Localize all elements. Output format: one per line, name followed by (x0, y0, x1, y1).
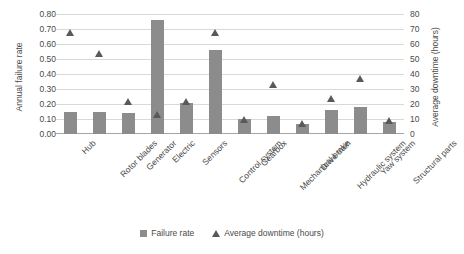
chart-legend: Failure rate Average downtime (hours) (0, 228, 464, 238)
bar (122, 113, 134, 134)
downtime-marker (327, 95, 335, 102)
downtime-marker (298, 120, 306, 127)
downtime-marker (182, 98, 190, 105)
x-axis-tick-label: Structural parts (410, 138, 458, 186)
downtime-marker (211, 29, 219, 36)
gridline (56, 14, 404, 15)
downtime-marker (356, 75, 364, 82)
y-axis-right-tick-label: 20 (410, 99, 444, 109)
y-axis-right-tick-label: 80 (410, 9, 444, 19)
legend-label: Average downtime (hours) (224, 228, 324, 238)
y-axis-left-tick-label: 0.40 (20, 69, 56, 79)
plot-area (56, 14, 404, 134)
gridline (56, 29, 404, 30)
downtime-marker (269, 81, 277, 88)
gridline (56, 104, 404, 105)
x-axis-tick-label: Hydraulic system (354, 138, 407, 191)
y-axis-left-tick-label: 0.60 (20, 39, 56, 49)
downtime-marker (240, 116, 248, 123)
legend-item-failure-rate: Failure rate (140, 228, 194, 238)
bar (209, 50, 221, 134)
x-axis-line (56, 133, 404, 134)
y-axis-left-tick-label: 0.30 (20, 84, 56, 94)
legend-item-average-downtime: Average downtime (hours) (212, 228, 324, 238)
bar (325, 110, 337, 134)
bar (180, 103, 192, 135)
x-axis-tick-label: Sensors (200, 138, 229, 167)
y-axis-left-tick-label: 0.10 (20, 114, 56, 124)
downtime-marker (66, 29, 74, 36)
bar (267, 116, 279, 134)
x-axis-tick-label: Hub (79, 138, 97, 156)
bar (64, 112, 76, 135)
chart-container: Annual failure rate Average downtime (ho… (0, 0, 464, 254)
y-axis-right-tick-label: 50 (410, 54, 444, 64)
y-axis-left-tick-label: 0.20 (20, 99, 56, 109)
y-axis-left-tick-label: 0.70 (20, 24, 56, 34)
y-axis-right-tick-label: 10 (410, 114, 444, 124)
gridline (56, 59, 404, 60)
gridline (56, 119, 404, 120)
gridline (56, 44, 404, 45)
square-marker-icon (140, 230, 147, 237)
downtime-marker (95, 50, 103, 57)
triangle-marker-icon (212, 230, 220, 237)
gridline (56, 74, 404, 75)
downtime-marker (124, 98, 132, 105)
bar (354, 107, 366, 134)
y-axis-right-tick-label: 40 (410, 69, 444, 79)
x-axis-tick-label: Drive train (318, 138, 352, 172)
bar (93, 112, 105, 135)
y-axis-right-tick-label: 70 (410, 24, 444, 34)
legend-label: Failure rate (151, 228, 194, 238)
gridline (56, 89, 404, 90)
y-axis-right-tick-label: 30 (410, 84, 444, 94)
downtime-marker (385, 117, 393, 124)
y-axis-left-tick-label: 0.80 (20, 9, 56, 19)
downtime-marker (153, 111, 161, 118)
y-axis-left-tick-label: 0.50 (20, 54, 56, 64)
y-axis-right-tick-label: 60 (410, 39, 444, 49)
y-axis-left-tick-label: 0.00 (20, 129, 56, 139)
y-axis-right-tick-label: 0 (410, 129, 444, 139)
